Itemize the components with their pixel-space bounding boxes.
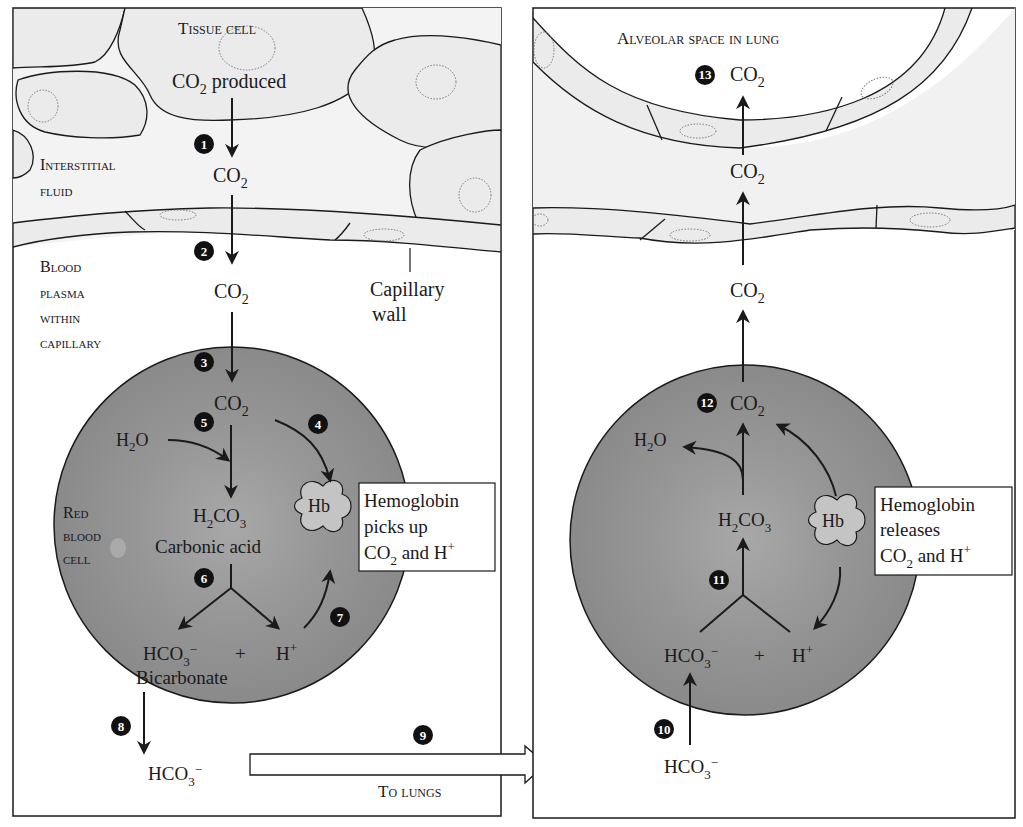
svg-text:picks up: picks up — [364, 516, 428, 537]
step-2-badge: 2 — [194, 241, 214, 261]
svg-text:1: 1 — [201, 137, 208, 152]
svg-text:5: 5 — [201, 415, 208, 430]
svg-text:13: 13 — [699, 67, 713, 82]
step-8-badge: 8 — [111, 716, 131, 736]
plasma-label-3: within — [40, 309, 80, 326]
hemoglobin-left: Hb — [295, 480, 352, 531]
interstitial-label-1: Interstitial — [40, 156, 116, 173]
bicarbonate-label: Bicarbonate — [136, 667, 228, 688]
rbc-label-2: blood — [63, 527, 101, 544]
step-11-badge: 11 — [709, 570, 729, 590]
hb-label-right: Hb — [822, 511, 844, 531]
plus-left: + — [235, 643, 246, 664]
step-7-badge: 7 — [330, 607, 350, 627]
red-blood-cell-right — [570, 365, 920, 715]
hb-callout-right: Hemoglobin releases CO2 and H+ — [875, 487, 1012, 575]
svg-text:6: 6 — [201, 571, 208, 586]
step-4-badge: 4 — [308, 414, 328, 434]
svg-text:3: 3 — [201, 355, 208, 370]
step-13-badge: 13 — [695, 65, 715, 85]
interstitial-label-2: fluid — [40, 182, 72, 199]
carbonic-acid-label: Carbonic acid — [155, 536, 262, 557]
diagram-canvas: Tissue cell CO2 produced Interstitial fl… — [0, 0, 1023, 827]
plasma-label-1: Blood — [40, 258, 81, 275]
plasma-label-4: capillary — [40, 334, 101, 351]
step-1-badge: 1 — [194, 134, 214, 154]
step-5-badge: 5 — [194, 412, 214, 432]
capillary-wall-label-2: wall — [372, 303, 407, 325]
rbc-label-1: Red — [63, 504, 88, 521]
svg-text:2: 2 — [201, 244, 208, 259]
alveolar-space-label: Alveolar space in lung — [617, 29, 779, 48]
step-12-badge: 12 — [697, 393, 717, 413]
left-panel-tissue — [13, 8, 501, 816]
svg-text:Hemoglobin: Hemoglobin — [364, 490, 459, 511]
plus-right: + — [754, 645, 765, 666]
svg-text:11: 11 — [713, 572, 725, 587]
svg-text:7: 7 — [337, 610, 344, 625]
svg-text:9: 9 — [420, 728, 427, 743]
hb-callout-left: Hemoglobin picks up CO2 and H+ — [359, 483, 495, 571]
capillary-wall-label-1: Capillary — [370, 278, 444, 301]
step-6-badge: 6 — [194, 568, 214, 588]
svg-text:10: 10 — [658, 722, 671, 737]
plasma-label-2: plasma — [40, 284, 85, 301]
step-10-badge: 10 — [654, 719, 674, 739]
svg-text:8: 8 — [118, 719, 125, 734]
to-lungs-label: To lungs — [378, 782, 441, 801]
step-3-badge: 3 — [194, 352, 214, 372]
svg-text:4: 4 — [315, 417, 322, 432]
step-9-badge: 9 — [413, 725, 433, 745]
rbc-label-3: cell — [63, 550, 91, 567]
right-panel-lung — [532, 8, 1015, 818]
svg-text:releases: releases — [880, 519, 940, 540]
svg-text:12: 12 — [701, 395, 714, 410]
svg-text:Hemoglobin: Hemoglobin — [880, 494, 975, 515]
hb-label-left: Hb — [308, 496, 330, 516]
tissue-cell-label: Tissue cell — [178, 19, 256, 38]
hemoglobin-right: Hb — [809, 494, 866, 545]
